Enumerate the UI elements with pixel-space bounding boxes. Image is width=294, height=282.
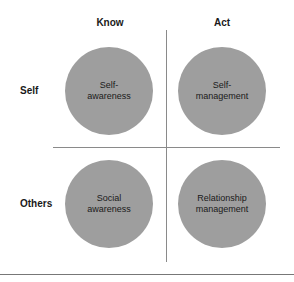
quadrant-label: Relationship management <box>196 193 249 215</box>
quadrant-circle-social-awareness: Social awareness <box>65 160 153 248</box>
horizontal-divider <box>53 147 280 148</box>
column-header-act: Act <box>182 16 262 30</box>
quadrant-label: Self- management <box>196 80 249 102</box>
quadrant-label: Self- awareness <box>87 80 131 102</box>
vertical-divider <box>166 30 167 262</box>
column-header-know: Know <box>70 16 150 30</box>
quadrant-circle-self-management: Self- management <box>178 47 266 135</box>
row-header-others: Others <box>10 197 70 211</box>
quadrant-circle-self-awareness: Self- awareness <box>65 47 153 135</box>
quadrant-label: Social awareness <box>87 193 131 215</box>
quadrant-circle-relationship-management: Relationship management <box>178 160 266 248</box>
row-header-self: Self <box>10 84 70 98</box>
bottom-rule <box>0 274 294 275</box>
